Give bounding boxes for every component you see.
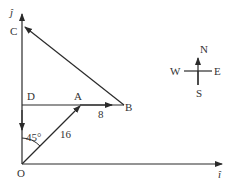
point-O-label: O [17, 167, 25, 179]
point-C-label: C [10, 25, 17, 37]
angle-label: 45° [26, 131, 41, 143]
point-A-label: A [74, 90, 82, 102]
compass-east-label: E [214, 65, 221, 77]
compass-west-label: W [170, 65, 181, 77]
compass-south-label: S [196, 87, 202, 99]
point-D-label: D [27, 90, 35, 102]
compass-north-label: N [200, 43, 208, 55]
point-B-label: B [125, 101, 132, 113]
vector-diagram: ĵ î C D A B O 45° 16 8 N S E W [0, 0, 236, 193]
y-axis-label: ĵ [8, 6, 14, 18]
AB-length-label: 8 [98, 108, 104, 120]
OA-length-label: 16 [60, 128, 72, 140]
x-axis-label: î [218, 168, 222, 180]
